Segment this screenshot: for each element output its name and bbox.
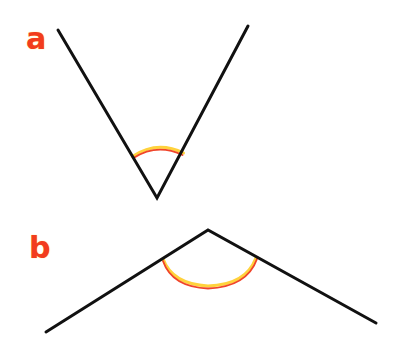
angle-b-arc-outer <box>163 258 256 286</box>
angle-b-rays <box>46 230 376 332</box>
angles-diagram <box>0 0 408 347</box>
angle-a <box>58 26 248 198</box>
angle-b-arc-inner <box>163 259 257 289</box>
angle-b <box>46 230 376 332</box>
angle-a-rays <box>58 26 248 198</box>
